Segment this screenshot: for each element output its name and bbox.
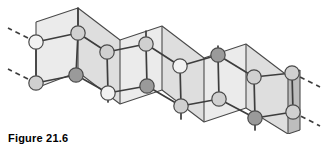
atom-row2-3 [101, 86, 115, 100]
atom-row1-1 [29, 35, 43, 49]
atom-row1-8 [285, 66, 299, 80]
atom-row1-4 [139, 37, 153, 51]
atom-row1-6 [211, 48, 225, 62]
atom-row1-5 [173, 59, 187, 73]
atom-row2-1 [29, 76, 43, 90]
atom-row2-4 [140, 79, 154, 93]
atom-row2-2 [69, 68, 83, 82]
figure-container: Figure 21.6 [0, 0, 327, 156]
atom-row2-8 [286, 105, 300, 119]
atom-row1-2 [71, 26, 85, 40]
atom-row2-6 [212, 92, 226, 106]
atom-row1-7 [247, 70, 261, 84]
puckered-lattice-diagram [0, 0, 327, 134]
figure-caption: Figure 21.6 [8, 132, 68, 144]
atom-row2-5 [174, 99, 188, 113]
atom-row1-3 [100, 45, 114, 59]
atom-row2-7 [248, 111, 262, 125]
